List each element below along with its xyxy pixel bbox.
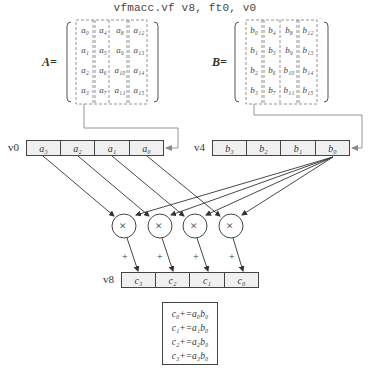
plus-icon: +	[122, 251, 128, 262]
matrix-cell: b₇	[263, 85, 281, 95]
matrix-a-label: A=	[42, 55, 57, 70]
matrix-cell: a₁₄	[130, 65, 148, 75]
matrix-cell: b₁₁	[280, 85, 298, 95]
matrix-cell: a₉	[111, 45, 129, 55]
matrix-cell: a₁₂	[130, 25, 148, 35]
plus-icon: +	[229, 251, 235, 262]
matrix-cell: b₁₀	[280, 65, 298, 75]
register-v4-label: v4	[194, 141, 205, 153]
register-cell: b₂	[246, 140, 281, 156]
register-cell: c₁	[189, 272, 225, 288]
multiply-icon: ×	[226, 218, 233, 234]
matrix-cell: b₁₄	[299, 65, 317, 75]
plus-icon: +	[157, 251, 163, 262]
matrix-cell: b₁₂	[299, 25, 317, 35]
matrix-cell: b₁₃	[299, 45, 317, 55]
matrix-cell: a₁	[76, 45, 94, 55]
matrix-cell: a₁₁	[111, 85, 129, 95]
register-cell: c₀	[224, 272, 259, 288]
register-cell: b₀	[315, 140, 350, 156]
matrix-cell: a₁₅	[130, 85, 148, 95]
matrix-cell: a₁₀	[111, 65, 129, 75]
register-cell: b₁	[280, 140, 316, 156]
equation: c₂+=a₂b₀	[163, 335, 217, 349]
multiply-icon: ×	[155, 218, 162, 234]
matrix-cell: a₄	[94, 25, 112, 35]
register-cell: b₃	[212, 140, 247, 156]
register-cell: c₃	[121, 272, 156, 288]
matrix-cell: a₁₃	[130, 45, 148, 55]
matrix-cell: a₇	[94, 85, 112, 95]
matrix-cell: a₃	[76, 85, 94, 95]
matrix-cell: b₆	[263, 65, 281, 75]
equation: c₁+=a₁b₀	[163, 321, 217, 335]
matrix-cell: b₁	[245, 45, 263, 55]
register-cell: a₀	[129, 140, 164, 156]
register-cell: c₂	[155, 272, 190, 288]
plus-icon: +	[193, 251, 199, 262]
matrix-b-label: B=	[212, 55, 227, 70]
matrix-cell: a₈	[111, 25, 129, 35]
equations-box: c₀+=a₀b₀ c₁+=a₁b₀ c₂+=a₂b₀ c₃+=a₃b₀	[162, 302, 218, 365]
multiply-icon: ×	[190, 218, 197, 234]
register-cell: a₁	[94, 140, 130, 156]
matrix-cell: b₅	[263, 45, 281, 55]
matrix-cell: b₉	[280, 45, 298, 55]
register-v0-label: v0	[8, 141, 19, 153]
accumulate-arrows	[127, 238, 243, 271]
b0-broadcast-arrows	[136, 157, 333, 215]
register-cell: a₃	[26, 140, 61, 156]
register-v8-label: v8	[103, 273, 114, 285]
matrix-cell: b₈	[280, 25, 298, 35]
equation: c₀+=a₀b₀	[163, 307, 217, 321]
matrix-cell: a₂	[76, 65, 94, 75]
matrix-cell: a₀	[76, 25, 94, 35]
multiplier-circles	[112, 214, 243, 238]
matrix-cell: b₂	[245, 65, 263, 75]
matrix-cell: b₀	[245, 25, 263, 35]
register-cell: a₂	[60, 140, 95, 156]
matrix-cell: b₁₅	[299, 85, 317, 95]
matrix-cell: b₄	[263, 25, 281, 35]
equation: c₃+=a₃b₀	[163, 349, 217, 363]
multiply-icon: ×	[119, 218, 126, 234]
matrix-cell: b₃	[245, 85, 263, 95]
matrix-cell: a₅	[94, 45, 112, 55]
matrix-cell: a₆	[94, 65, 112, 75]
